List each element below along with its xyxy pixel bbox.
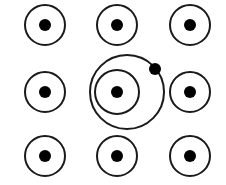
center-dot bbox=[39, 150, 51, 162]
center-dot bbox=[39, 19, 51, 31]
target-r1c3 bbox=[170, 5, 210, 45]
center-dot bbox=[184, 86, 196, 98]
target-r2c1 bbox=[25, 72, 65, 112]
center-dot bbox=[184, 19, 196, 31]
circle-grid bbox=[25, 5, 210, 176]
target-r3c1 bbox=[25, 136, 65, 176]
target-r2c3 bbox=[170, 72, 210, 112]
satellite-dot bbox=[149, 63, 161, 75]
target-r1c2 bbox=[97, 5, 137, 45]
target-r3c2 bbox=[97, 136, 137, 176]
center-dot bbox=[184, 150, 196, 162]
target-r2c2 bbox=[95, 70, 139, 114]
center-dot bbox=[111, 150, 123, 162]
center-dot bbox=[39, 86, 51, 98]
target-r1c1 bbox=[25, 5, 65, 45]
concentric-circles-diagram bbox=[0, 0, 226, 185]
center-dot bbox=[111, 86, 123, 98]
target-r3c3 bbox=[170, 136, 210, 176]
center-dot bbox=[111, 19, 123, 31]
